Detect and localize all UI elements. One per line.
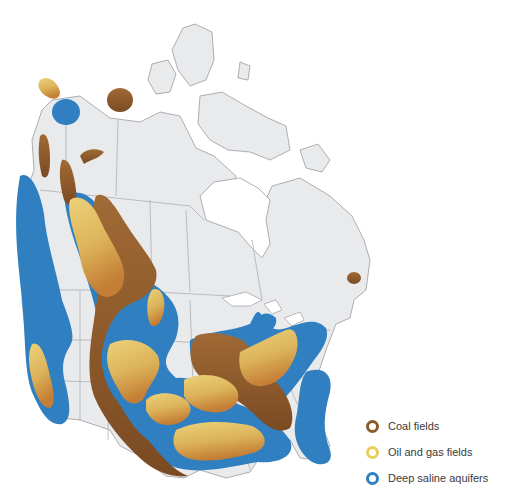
map-legend: Coal fields Oil and gas fields Deep sali… <box>366 413 488 491</box>
legend-label: Coal fields <box>388 420 439 432</box>
aquifer-ring-marker-icon <box>366 472 379 485</box>
legend-item-deep-saline-aquifers: Deep saline aquifers <box>366 465 488 491</box>
coal-ring-marker-icon <box>366 420 379 433</box>
legend-label: Oil and gas fields <box>388 446 472 458</box>
legend-item-oil-gas-fields: Oil and gas fields <box>366 439 488 465</box>
oil-gas-ring-marker-icon <box>366 446 379 459</box>
legend-item-coal-fields: Coal fields <box>366 413 488 439</box>
legend-label: Deep saline aquifers <box>388 472 488 484</box>
